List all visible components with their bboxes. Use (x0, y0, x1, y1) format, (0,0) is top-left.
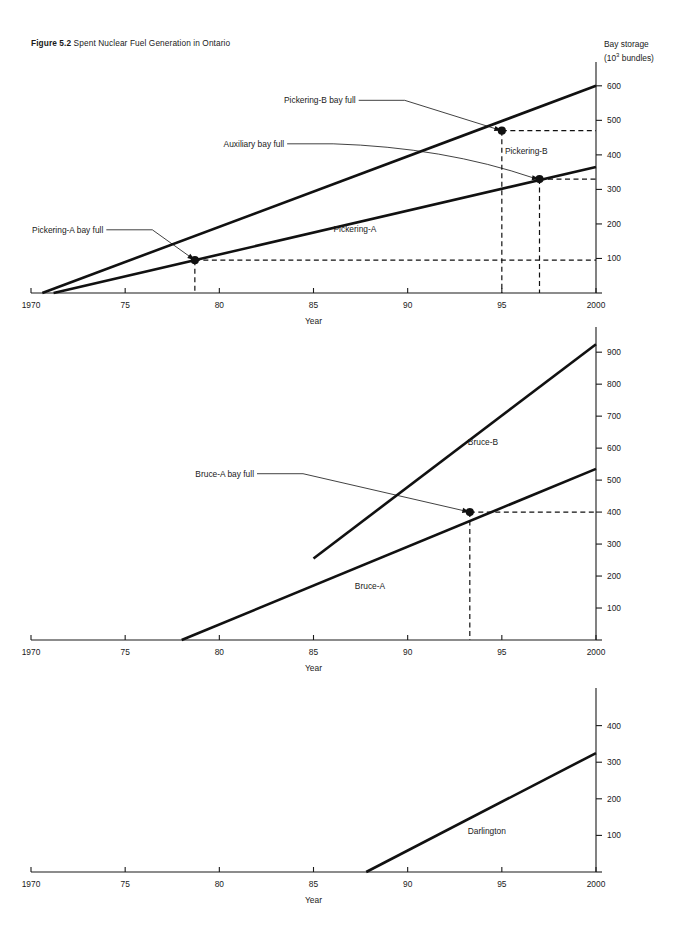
y-axis-units-prefix: (10 (604, 53, 616, 63)
series-label-bruce-b: Bruce-B (468, 437, 499, 447)
y-tick-label-pickering-5: 500 (607, 115, 621, 125)
data-point-marker-pickering-a-bay-full (191, 256, 199, 264)
y-tick-label-bruce-8: 800 (607, 379, 621, 389)
figure-root: Figure 5.2 Spent Nuclear Fuel Generation… (0, 0, 689, 925)
x-tick-label-bruce-5: 95 (497, 647, 507, 657)
y-tick-label-bruce-3: 300 (607, 539, 621, 549)
figure-plot-area: 197075808590952000Year100200300400500600… (0, 0, 689, 925)
annotation-label-pickering-b-bay-full: Pickering-B bay full (284, 95, 356, 105)
annotation-label-bruce-a-bay-full: Bruce-A bay full (195, 469, 254, 479)
y-axis-header-line1: Bay storage (604, 39, 649, 49)
x-tick-label-darlington-4: 90 (403, 879, 413, 889)
annotation-label-pickering-a-bay-full: Pickering-A bay full (32, 225, 103, 235)
x-tick-label-bruce-6: 2000 (587, 647, 606, 657)
leader-line-pickering-b-bay-full (359, 100, 497, 129)
y-tick-label-bruce-6: 600 (607, 443, 621, 453)
x-tick-label-darlington-0: 1970 (22, 879, 41, 889)
series-line-bruce-a (182, 469, 596, 640)
series-label-pickering-a: Pickering-A (334, 224, 377, 234)
leader-line-bruce-a-bay-full (257, 474, 464, 511)
x-tick-label-pickering-5: 95 (497, 300, 507, 310)
series-label-pickering-b: Pickering-B (505, 146, 548, 156)
chart-panel-bruce: 197075808590952000Year100200300400500600… (22, 327, 622, 673)
y-tick-label-bruce-1: 100 (607, 603, 621, 613)
y-axis-header-line2: (103 bundles) (604, 52, 654, 63)
data-point-marker-auxiliary-bay-full (535, 175, 543, 183)
y-tick-label-pickering-1: 100 (607, 253, 621, 263)
data-point-marker-bruce-a-bay-full (466, 508, 474, 516)
y-tick-label-pickering-2: 200 (607, 219, 621, 229)
y-tick-label-darlington-1: 100 (607, 830, 621, 840)
chart-panel-pickering: 197075808590952000Year100200300400500600… (22, 62, 622, 326)
y-tick-label-darlington-2: 200 (607, 794, 621, 804)
x-axis-title-darlington: Year (305, 895, 322, 905)
y-tick-label-pickering-6: 600 (607, 81, 621, 91)
x-tick-label-darlington-1: 75 (121, 879, 131, 889)
y-tick-label-bruce-5: 500 (607, 475, 621, 485)
x-tick-label-bruce-1: 75 (121, 647, 131, 657)
x-tick-label-pickering-0: 1970 (22, 300, 41, 310)
y-tick-label-bruce-4: 400 (607, 507, 621, 517)
x-tick-label-bruce-2: 80 (215, 647, 225, 657)
y-tick-label-pickering-4: 400 (607, 150, 621, 160)
series-line-darlington (366, 753, 596, 872)
series-label-darlington: Darlington (468, 826, 507, 836)
y-tick-label-bruce-7: 700 (607, 411, 621, 421)
x-tick-label-darlington-6: 2000 (587, 879, 606, 889)
leader-line-auxiliary-bay-full (287, 144, 534, 178)
x-tick-label-bruce-3: 85 (309, 647, 319, 657)
series-line-pickering-b (42, 86, 596, 293)
x-tick-label-pickering-4: 90 (403, 300, 413, 310)
y-tick-label-bruce-9: 900 (607, 347, 621, 357)
data-point-marker-pickering-b-bay-full (498, 127, 506, 135)
y-tick-label-pickering-3: 300 (607, 184, 621, 194)
x-tick-label-darlington-2: 80 (215, 879, 225, 889)
y-tick-label-bruce-2: 200 (607, 571, 621, 581)
x-tick-label-pickering-6: 2000 (587, 300, 606, 310)
x-tick-label-pickering-2: 80 (215, 300, 225, 310)
x-axis-title-pickering: Year (305, 316, 322, 326)
x-tick-label-bruce-0: 1970 (22, 647, 41, 657)
x-tick-label-pickering-3: 85 (309, 300, 319, 310)
y-axis-header: Bay storage(103 bundles) (604, 39, 654, 63)
series-label-bruce-a: Bruce-A (355, 581, 386, 591)
annotation-label-auxiliary-bay-full: Auxiliary bay full (224, 139, 285, 149)
x-tick-label-pickering-1: 75 (121, 300, 131, 310)
y-axis-units-suffix: bundles) (619, 53, 654, 63)
x-axis-title-bruce: Year (305, 663, 322, 673)
chart-panel-darlington: 197075808590952000Year100200300400Darlin… (22, 688, 622, 905)
x-tick-label-darlington-3: 85 (309, 879, 319, 889)
y-tick-label-darlington-3: 300 (607, 757, 621, 767)
x-tick-label-darlington-5: 95 (497, 879, 507, 889)
y-tick-label-darlington-4: 400 (607, 721, 621, 731)
x-tick-label-bruce-4: 90 (403, 647, 413, 657)
